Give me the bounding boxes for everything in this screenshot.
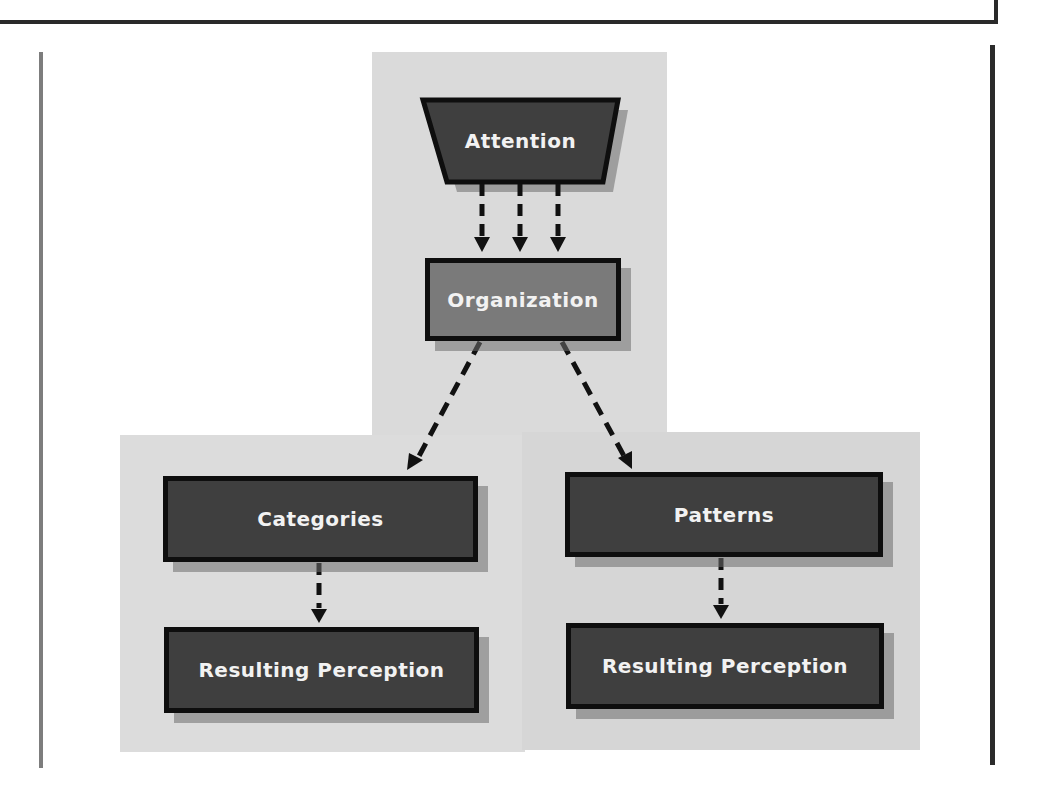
patterns-node: Patterns xyxy=(565,472,883,557)
arrow-org-patterns xyxy=(562,342,624,456)
arrowhead-icon xyxy=(474,237,490,252)
patterns-label: Patterns xyxy=(674,503,774,527)
attention-node: Attention xyxy=(423,100,618,182)
arrow-org-categories xyxy=(418,342,480,458)
arrowhead-icon xyxy=(550,237,566,252)
arrowhead-icon xyxy=(311,609,327,623)
perception-left-node: Resulting Perception xyxy=(164,627,479,713)
perception-left-label: Resulting Perception xyxy=(198,658,444,682)
categories-node: Categories xyxy=(163,476,478,562)
perception-right-node: Resulting Perception xyxy=(566,623,884,709)
organization-node: Organization xyxy=(425,258,621,341)
arrowhead-icon xyxy=(713,605,729,619)
arrowhead-icon xyxy=(512,237,528,252)
perception-right-label: Resulting Perception xyxy=(602,654,848,678)
attention-label: Attention xyxy=(465,129,576,153)
categories-label: Categories xyxy=(257,507,384,531)
organization-label: Organization xyxy=(447,288,598,312)
